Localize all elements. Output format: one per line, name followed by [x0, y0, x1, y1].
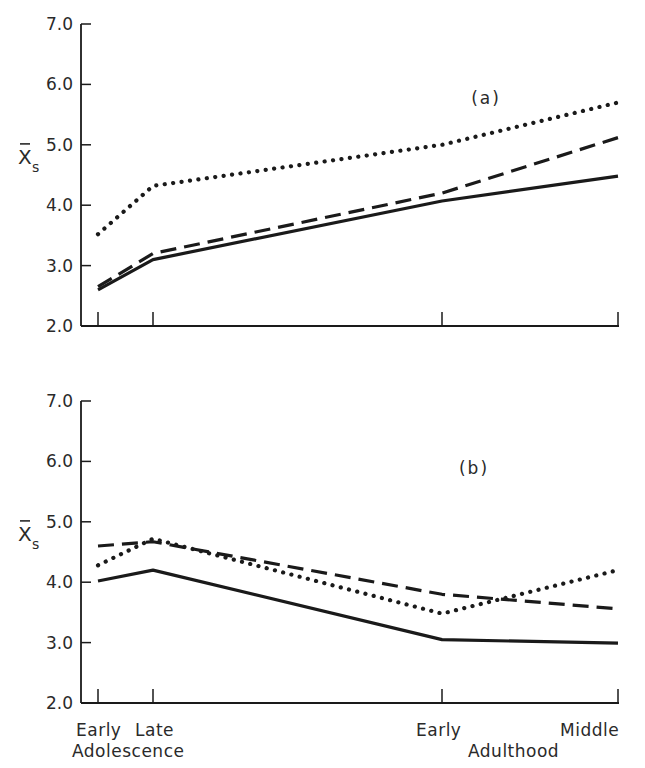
series-solid-line: [98, 176, 618, 290]
y-tick-label: 5.0: [46, 512, 73, 532]
y-tick-label: 6.0: [46, 74, 73, 94]
x-label-early-adolescence: Early: [76, 720, 121, 740]
x-label-early-adulthood: Early: [416, 720, 461, 740]
axes: 2.03.04.05.06.07.0: [46, 391, 619, 713]
series-dashed-line: [98, 138, 618, 287]
y-label-subscript: s: [32, 536, 39, 552]
y-tick-label: 7.0: [46, 14, 73, 34]
axes: 2.03.04.05.06.07.0: [46, 14, 619, 336]
series-dotted-line: [98, 103, 618, 235]
y-label-main: X: [18, 522, 32, 546]
y-axis-label: Xs: [18, 521, 39, 552]
panel-label: (a): [471, 88, 501, 108]
y-axis-label: Xs: [18, 144, 39, 175]
x-group-label-adolescence: Adolescence: [72, 741, 184, 761]
panel-b: 2.03.04.05.06.07.0Xs(b): [18, 391, 619, 713]
x-group-label-adulthood: Adulthood: [468, 741, 559, 761]
series-solid-line: [98, 570, 618, 643]
panel-a: 2.03.04.05.06.07.0Xs(a): [18, 14, 619, 336]
y-tick-label: 2.0: [46, 316, 73, 336]
y-label-subscript: s: [32, 159, 39, 175]
y-tick-label: 5.0: [46, 135, 73, 155]
panel-label: (b): [459, 458, 489, 478]
figure: 2.03.04.05.06.07.0Xs(a) 2.03.04.05.06.07…: [0, 0, 645, 768]
x-label-middle-adulthood: Middle: [560, 720, 619, 740]
x-axis-category-labels: Early Late Adolescence Early Middle Adul…: [72, 720, 619, 761]
y-tick-label: 7.0: [46, 391, 73, 411]
y-tick-label: 4.0: [46, 195, 73, 215]
x-label-late-adolescence: Late: [135, 720, 174, 740]
y-tick-label: 3.0: [46, 256, 73, 276]
y-tick-label: 2.0: [46, 693, 73, 713]
y-tick-label: 3.0: [46, 633, 73, 653]
y-tick-label: 4.0: [46, 572, 73, 592]
y-tick-label: 6.0: [46, 451, 73, 471]
y-label-main: X: [18, 145, 32, 169]
